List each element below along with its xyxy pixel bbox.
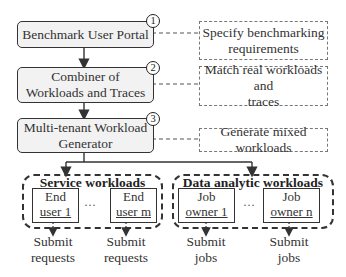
- output-line2: jobs: [259, 250, 319, 266]
- output-line1: Submit: [176, 234, 236, 250]
- ellipsis: …: [243, 195, 255, 210]
- output-submit-requests-1: Submit requests: [23, 234, 83, 266]
- output-submit-requests-m: Submit requests: [96, 234, 156, 266]
- output-submit-jobs-n: Submit jobs: [259, 234, 319, 266]
- step-1-badge: 1: [146, 14, 160, 28]
- stage-workload-generator: Multi-tenant Workload Generator: [17, 118, 154, 153]
- stage-benchmark-user-portal: Benchmark User Portal: [17, 21, 154, 48]
- output-line1: Submit: [23, 234, 83, 250]
- note-line1: Generate mixed workloads: [200, 124, 327, 156]
- note-line2: traces: [248, 94, 279, 110]
- actor-job-owner-n: Job owner n: [263, 188, 320, 223]
- output-line1: Submit: [259, 234, 319, 250]
- actor-end-user-m: End user m: [110, 188, 157, 223]
- output-submit-jobs-1: Submit jobs: [176, 234, 236, 266]
- step-2-badge: 2: [146, 61, 160, 75]
- stage-label-line1: Multi-tenant Workload: [24, 120, 148, 136]
- note-line1: Specify benchmarking: [203, 25, 325, 41]
- stage-label: Benchmark User Portal: [22, 27, 149, 43]
- actor-line2: user m: [111, 204, 156, 219]
- note-line2: requirements: [228, 41, 298, 57]
- actor-line1: End: [33, 189, 78, 204]
- output-line1: Submit: [96, 234, 156, 250]
- stage-label-line1: Combiner of: [51, 69, 120, 85]
- actor-line2: user 1: [33, 204, 78, 219]
- actor-line2: owner n: [264, 204, 319, 219]
- actor-line1: Job: [264, 189, 319, 204]
- stage-label-line2: Workloads and Traces: [26, 85, 146, 101]
- actor-end-user-1: End user 1: [32, 188, 79, 223]
- output-line2: requests: [23, 250, 83, 266]
- actor-line1: Job: [179, 189, 234, 204]
- actor-line1: End: [111, 189, 156, 204]
- note-specify-requirements: Specify benchmarking requirements: [199, 21, 328, 60]
- actor-job-owner-1: Job owner 1: [178, 188, 235, 223]
- actor-line2: owner 1: [179, 204, 234, 219]
- step-3-badge: 3: [146, 112, 160, 126]
- stage-label-line2: Generator: [59, 136, 113, 152]
- note-line1: Match real workloads and: [200, 62, 327, 94]
- ellipsis: …: [84, 195, 96, 210]
- stage-combiner: Combiner of Workloads and Traces: [17, 67, 154, 103]
- note-match-workloads: Match real workloads and traces: [199, 66, 328, 106]
- note-generate-mixed: Generate mixed workloads: [199, 128, 328, 152]
- output-line2: requests: [96, 250, 156, 266]
- output-line2: jobs: [176, 250, 236, 266]
